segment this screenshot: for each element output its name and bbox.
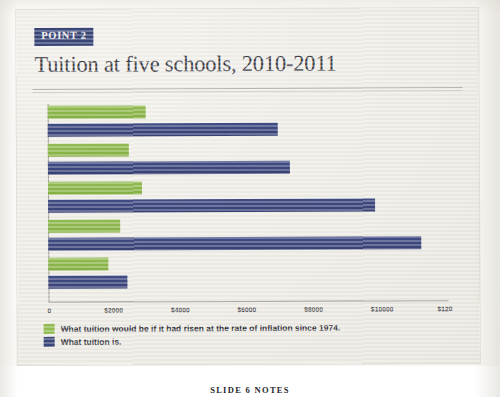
x-tick-label-1: $2000	[104, 307, 123, 314]
legend-swatch-navy	[44, 337, 55, 347]
x-axis-tick-labels: 0$2000$4000$6000$8000$10000$120	[27, 100, 467, 102]
x-tick-label-2: $4000	[171, 306, 190, 313]
title-divider-secondary	[33, 90, 463, 93]
legend-item-2: What tuition is.	[44, 336, 341, 347]
scanned-slide-photo: POINT 2 Tuition at five schools, 2010-20…	[0, 0, 500, 397]
bar-inflation-1	[48, 105, 146, 118]
tuition-bar-chart: 0$2000$4000$6000$8000$10000$120	[27, 100, 468, 312]
legend-label-1: What tuition would be if it had risen at…	[61, 323, 341, 334]
bar-actual-2	[48, 161, 290, 175]
bar-actual-4	[48, 236, 421, 251]
bar-group	[27, 100, 467, 102]
presentation-slide: POINT 2 Tuition at five schools, 2010-20…	[16, 8, 480, 365]
chart-legend: What tuition would be if it had risen at…	[44, 323, 341, 350]
bar-actual-3	[48, 198, 375, 212]
bar-inflation-4	[48, 220, 120, 233]
legend-label-2: What tuition is.	[61, 337, 122, 347]
x-tick-label-0: 0	[48, 307, 52, 314]
x-axis-line	[49, 300, 449, 303]
x-tick-label-5: $10000	[371, 305, 394, 312]
legend-item-1: What tuition would be if it had risen at…	[44, 323, 341, 334]
bar-actual-5	[48, 276, 127, 289]
bar-actual-1	[48, 123, 278, 137]
bar-inflation-5	[48, 258, 108, 271]
point-badge: POINT 2	[34, 28, 93, 46]
x-tick-label-4: $8000	[304, 306, 323, 313]
x-tick-label-3: $6000	[238, 306, 257, 313]
bar-inflation-2	[48, 144, 129, 157]
x-tick-label-6: $120	[438, 305, 453, 312]
slide-notes-caption: SLIDE 6 NOTES	[0, 385, 500, 396]
legend-swatch-green	[44, 324, 55, 334]
slide-title: Tuition at five schools, 2010-2011	[34, 50, 454, 78]
bar-inflation-3	[48, 181, 142, 194]
